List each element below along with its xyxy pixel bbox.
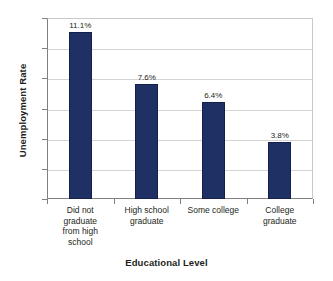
bar[interactable] xyxy=(135,84,158,199)
bar-slot: 11.1% xyxy=(47,18,114,199)
x-axis-title: Educational Level xyxy=(0,257,333,268)
bar[interactable] xyxy=(202,102,225,199)
bars-layer: 11.1%7.6%6.4%3.8% xyxy=(47,18,313,199)
bar-value-label: 6.4% xyxy=(204,92,222,100)
bar-slot: 7.6% xyxy=(114,18,181,199)
bar-slot: 3.8% xyxy=(247,18,314,199)
bar-chart: Unemployment Rate 024681012 11.1%7.6%6.4… xyxy=(0,0,333,281)
x-category-label: Some college xyxy=(180,205,247,247)
x-tick-mark xyxy=(114,199,115,204)
x-axis-labels: Did notgraduatefrom highschoolHigh schoo… xyxy=(47,205,313,247)
bar-value-label: 7.6% xyxy=(138,74,156,82)
bar-slot: 6.4% xyxy=(180,18,247,199)
x-tick-mark xyxy=(180,199,181,204)
x-category-label: Did notgraduatefrom highschool xyxy=(47,205,114,247)
x-tick-mark xyxy=(47,199,48,204)
x-category-label: High schoolgraduate xyxy=(114,205,181,247)
x-tick-mark xyxy=(313,199,314,204)
bar-value-label: 3.8% xyxy=(271,132,289,140)
x-category-label: Collegegraduate xyxy=(247,205,314,247)
y-axis-title: Unemployment Rate xyxy=(17,31,28,191)
x-tick-mark xyxy=(247,199,248,204)
bar-value-label: 11.1% xyxy=(69,22,91,30)
bar[interactable] xyxy=(69,32,92,199)
bar[interactable] xyxy=(268,142,291,199)
